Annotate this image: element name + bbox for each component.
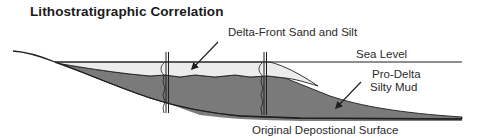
pro-delta-label-line2: Silty Mud — [370, 81, 417, 94]
sea-level-label: Sea Level — [356, 48, 407, 61]
land-surface-line — [13, 51, 55, 62]
pro-delta-label-line1: Pro-Delta — [372, 68, 421, 81]
original-surface-label: Original Depostional Surface — [252, 124, 398, 137]
delta-front-label: Delta-Front Sand and Silt — [228, 26, 357, 39]
